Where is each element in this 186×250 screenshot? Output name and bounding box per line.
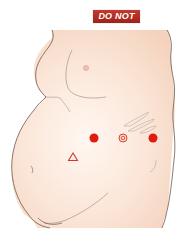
red-dot-right (149, 134, 158, 143)
nipple (83, 65, 88, 70)
navel-target (119, 134, 127, 142)
do-not-badge: DO NOT (93, 10, 140, 23)
body-silhouette (12, 30, 175, 228)
abdomen-illustration (0, 0, 186, 250)
red-dot-left (90, 134, 99, 143)
